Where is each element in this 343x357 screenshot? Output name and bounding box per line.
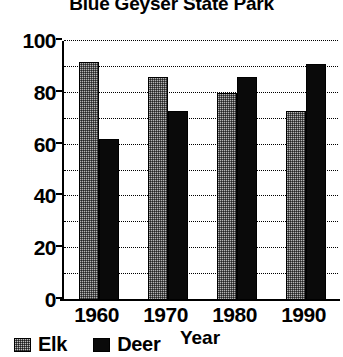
x-axis-tick-label: 1980 xyxy=(212,303,257,327)
bar-deer-1990 xyxy=(306,64,326,300)
x-axis-tick-label: 1990 xyxy=(281,303,326,327)
legend-swatch-icon xyxy=(93,338,110,352)
y-axis-tick-mark xyxy=(56,38,62,40)
x-axis-tick-label: 1960 xyxy=(74,303,119,327)
y-axis-tick-label: 20 xyxy=(34,236,56,260)
legend-label: Elk xyxy=(38,333,67,356)
bar-elk-1990 xyxy=(286,111,306,300)
bar-deer-1980 xyxy=(237,77,257,300)
legend-swatch-icon xyxy=(14,338,31,352)
y-axis-tick-label: 0 xyxy=(45,288,56,312)
bar-elk-1970 xyxy=(148,77,168,300)
x-axis: 1960197019801990 xyxy=(62,303,338,329)
legend-item-deer: Deer xyxy=(93,333,160,356)
bar-deer-1970 xyxy=(168,111,188,300)
y-axis-tick-label: 40 xyxy=(34,184,56,208)
bar-elk-1960 xyxy=(79,62,99,300)
bar-group-container xyxy=(64,41,338,300)
y-axis-tick-label: 60 xyxy=(34,133,56,157)
y-axis: 020406080100 xyxy=(0,41,56,300)
chart-title: Blue Geyser State Park xyxy=(0,0,343,15)
y-axis-tick-label: 80 xyxy=(34,81,56,105)
bar-elk-1980 xyxy=(217,93,237,300)
x-axis-tick-label: 1970 xyxy=(143,303,188,327)
legend-item-elk: Elk xyxy=(14,333,67,356)
bar-deer-1960 xyxy=(99,139,119,300)
y-axis-tick-label: 100 xyxy=(22,29,56,53)
plot-area xyxy=(62,41,338,300)
legend-label: Deer xyxy=(117,333,160,356)
x-axis-line xyxy=(60,299,340,301)
legend: ElkDeer xyxy=(14,333,160,356)
